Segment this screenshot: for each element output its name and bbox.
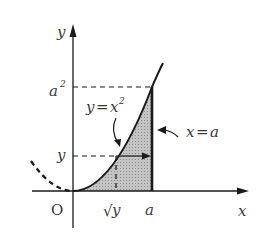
curve-label-pointer-head-icon xyxy=(114,139,121,147)
diagram-canvas: y x O a √ y y a 2 y = x 2 x = a xyxy=(0,0,260,240)
x-axis-label: x xyxy=(238,202,247,220)
curve-label-lhs: y xyxy=(85,98,95,116)
area-under-parabola-diagram: y x O a √ y y a 2 y = x 2 x = a xyxy=(0,0,260,240)
y-axis-arrow-icon xyxy=(70,24,77,37)
curve-label-eq: = xyxy=(96,98,109,116)
a-squared-base: a xyxy=(49,82,58,100)
y-tick-label: y xyxy=(56,146,66,164)
line-label-lhs: x xyxy=(186,123,195,141)
a-squared-exponent: 2 xyxy=(59,79,66,89)
line-label-eq: = xyxy=(196,123,209,141)
origin-label: O xyxy=(51,201,63,219)
line-label-pointer-head-icon xyxy=(157,126,166,134)
curve-label-pointer xyxy=(113,118,118,143)
line-label-rhs: a xyxy=(210,123,219,141)
x-axis-arrow-icon xyxy=(237,188,249,195)
sqrt-y-var: y xyxy=(111,201,121,219)
a-tick-label: a xyxy=(145,201,154,219)
parabola-left-dashed xyxy=(31,161,73,191)
line-label-pointer xyxy=(164,130,178,137)
y-axis-label: y xyxy=(56,23,66,41)
curve-label-exp: 2 xyxy=(118,96,125,106)
curve-label-base: x xyxy=(110,98,119,116)
